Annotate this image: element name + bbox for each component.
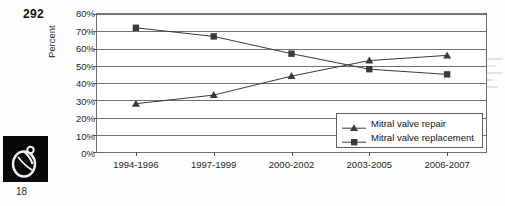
x-axis-tick-label: 2003-2005 xyxy=(347,159,392,170)
y-axis-tickmark xyxy=(93,152,97,153)
data-point-marker xyxy=(444,71,450,77)
x-axis-tickmark xyxy=(447,152,448,156)
x-axis-tick-label: 1997-1999 xyxy=(191,159,236,170)
legend-label: Mitral valve replacement xyxy=(371,132,474,143)
legend-item[interactable]: Mitral valve repair xyxy=(342,118,474,129)
line-chart: Percent 0%10%20%30%40%50%60%70%80% 1994-… xyxy=(49,8,491,190)
data-point-marker xyxy=(133,25,139,31)
y-axis-tick-label: 0% xyxy=(81,148,95,159)
data-point-marker xyxy=(443,51,451,58)
x-axis-tickmark xyxy=(369,152,370,156)
chart-legend: Mitral valve repairMitral valve replacem… xyxy=(336,113,483,148)
data-point-marker xyxy=(366,66,372,72)
stylized-monogram-logo-icon xyxy=(3,136,48,182)
square-marker-icon xyxy=(342,133,366,143)
data-point-marker xyxy=(288,50,294,56)
data-point-marker xyxy=(365,57,373,64)
plot-area: 1994-19961997-19992000-20022003-20052006… xyxy=(96,13,487,153)
page-canvas: 292 18 Percent 0%10%20%30%40%50%60%70%80… xyxy=(0,0,505,206)
data-point-marker xyxy=(211,33,217,39)
x-axis-tick-label: 2000-2002 xyxy=(269,159,314,170)
x-axis-tick-label: 1994-1996 xyxy=(113,159,158,170)
figure-number: 18 xyxy=(16,186,27,197)
y-axis-label: Percent xyxy=(46,25,57,58)
legend-item[interactable]: Mitral valve replacement xyxy=(342,132,474,143)
triangle-marker-icon xyxy=(342,119,366,129)
x-axis-tickmark xyxy=(136,152,137,156)
x-axis-tickmark xyxy=(214,152,215,156)
legend-label: Mitral valve repair xyxy=(371,118,446,129)
x-axis-tickmark xyxy=(292,152,293,156)
y-axis-tick-label: 80% xyxy=(76,8,95,19)
x-axis-tick-label: 2006-2007 xyxy=(424,159,469,170)
page-number: 292 xyxy=(23,7,44,21)
data-point-marker xyxy=(288,72,296,79)
data-point-marker xyxy=(132,100,140,107)
data-point-marker xyxy=(210,91,218,98)
